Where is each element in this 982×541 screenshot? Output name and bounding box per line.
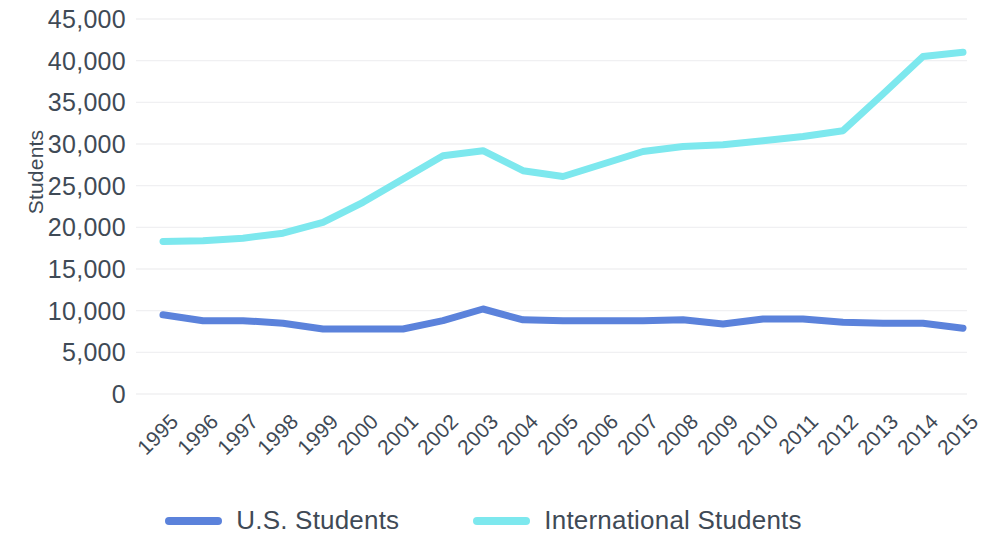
legend-label: International Students xyxy=(544,505,801,536)
legend-item[interactable]: International Students xyxy=(473,505,801,536)
series-lines xyxy=(163,52,963,329)
y-axis-tick-label: 35,000 xyxy=(0,90,126,115)
y-axis-tick-label: 10,000 xyxy=(0,298,126,323)
y-axis-tick-label: 40,000 xyxy=(0,48,126,73)
y-axis-tick-label: 15,000 xyxy=(0,257,126,282)
y-axis-tick-label: 45,000 xyxy=(0,7,126,32)
y-axis-tick-labels: 45,00040,00035,00030,00025,00020,00015,0… xyxy=(0,0,126,420)
gridlines xyxy=(136,19,967,394)
y-axis-tick-label: 30,000 xyxy=(0,132,126,157)
x-axis-tick-labels: 1995199619971998199920002001200220032004… xyxy=(0,398,967,488)
series-line-international-students xyxy=(163,52,963,241)
legend-swatch-icon xyxy=(473,517,530,525)
plot-canvas xyxy=(136,0,967,400)
legend-swatch-icon xyxy=(165,517,222,525)
y-axis-tick-label: 5,000 xyxy=(0,340,126,365)
chart-legend: U.S. StudentsInternational Students xyxy=(0,500,967,541)
series-line-u-s-students xyxy=(163,309,963,329)
legend-label: U.S. Students xyxy=(236,505,399,536)
legend-item[interactable]: U.S. Students xyxy=(165,505,399,536)
y-axis-tick-label: 20,000 xyxy=(0,215,126,240)
plot-area xyxy=(136,0,967,400)
y-axis-tick-label: 25,000 xyxy=(0,173,126,198)
